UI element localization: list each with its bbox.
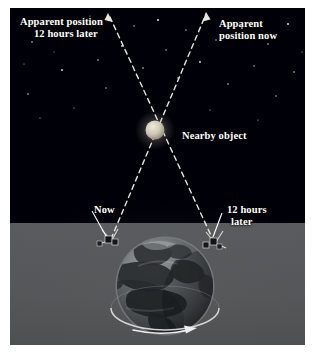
star: [61, 69, 63, 71]
star: [215, 39, 216, 40]
nearby-object-sphere: [146, 121, 165, 140]
star: [73, 107, 74, 108]
label-nearby-object: Nearby object: [182, 130, 247, 142]
star: [27, 93, 29, 95]
label-observer-later-line2: later: [231, 216, 267, 228]
star: [97, 59, 99, 61]
label-observer-now: Now: [94, 204, 115, 216]
star: [39, 117, 40, 118]
star: [54, 52, 55, 53]
star: [257, 119, 258, 120]
label-apparent-position-now: Apparent position now: [219, 18, 277, 42]
star: [287, 23, 289, 25]
label-apparent-position-later-line1: Apparent position: [20, 16, 103, 27]
label-observer-later-line1: 12 hours: [227, 204, 267, 215]
star: [23, 63, 24, 64]
label-observer-now-text: Now: [94, 204, 115, 215]
label-apparent-position-now-line2: position now: [219, 30, 277, 42]
star: [301, 51, 302, 52]
label-apparent-position-later-line2: 12 hours later: [34, 28, 103, 40]
star: [185, 29, 186, 30]
star: [142, 67, 144, 69]
label-apparent-position-now-line1: Apparent: [219, 18, 263, 29]
diagram-canvas: [10, 8, 305, 345]
star: [209, 109, 210, 110]
star: [199, 61, 201, 63]
label-nearby-object-text: Nearby object: [182, 130, 247, 141]
star: [133, 25, 134, 26]
star: [227, 83, 229, 85]
star: [275, 95, 276, 96]
star: [267, 43, 269, 45]
label-apparent-position-later: Apparent position 12 hours later: [20, 16, 103, 40]
star: [165, 49, 166, 50]
star: [253, 65, 254, 66]
star: [105, 87, 106, 88]
star: [31, 41, 33, 43]
star: [293, 71, 295, 73]
parallax-diagram: Apparent position 12 hours later Apparen…: [10, 8, 305, 345]
label-observer-12-hours-later: 12 hours later: [227, 204, 267, 228]
star: [157, 19, 159, 21]
nearby-object: [135, 110, 175, 150]
